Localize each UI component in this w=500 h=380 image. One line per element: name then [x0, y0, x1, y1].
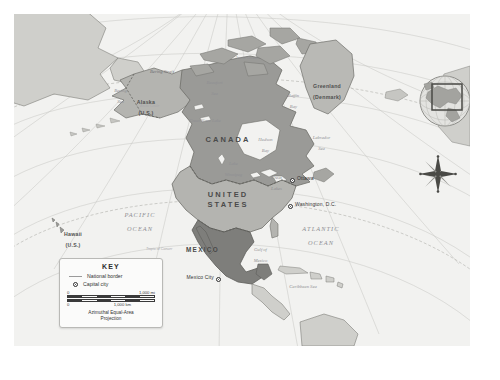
map-legend[interactable]: KEY National border Capital city 0 1,000… — [59, 258, 163, 328]
projection-line2: Projection — [101, 316, 122, 321]
locator-globe-inset[interactable] — [418, 74, 470, 128]
scale-miles-max: 1,000 mi — [139, 290, 155, 295]
legend-item-capital-city: Capital city — [69, 281, 157, 287]
legend-title: KEY — [65, 263, 157, 270]
legend-label-capital-city: Capital city — [83, 281, 108, 287]
capital-city-dot-icon — [73, 282, 78, 287]
scale-km-max: 1,000 km — [114, 302, 131, 307]
scale-miles-min: 0 — [67, 290, 69, 295]
map-screenshot: CANADA UNITED STATES MEXICO Alaska (U.S.… — [0, 0, 500, 380]
scale-km-min: 0 — [67, 302, 69, 307]
national-border-line-icon — [69, 276, 82, 277]
legend-item-national-border: National border — [69, 273, 157, 279]
capital-marker-ottawa[interactable] — [290, 178, 295, 183]
compass-rose — [418, 154, 458, 194]
capital-marker-mexico-city[interactable] — [216, 277, 221, 282]
legend-projection-note: Azimuthal Equal-Area Projection — [65, 310, 157, 322]
capital-marker-washington[interactable] — [288, 204, 293, 209]
projection-line1: Azimuthal Equal-Area — [88, 310, 133, 315]
legend-label-national-border: National border — [87, 273, 122, 279]
scale-bar-graphic-miles — [67, 295, 155, 298]
scale-bar-miles: 0 1,000 mi — [67, 290, 155, 298]
scale-bar-km: 0 1,000 km — [67, 299, 155, 307]
